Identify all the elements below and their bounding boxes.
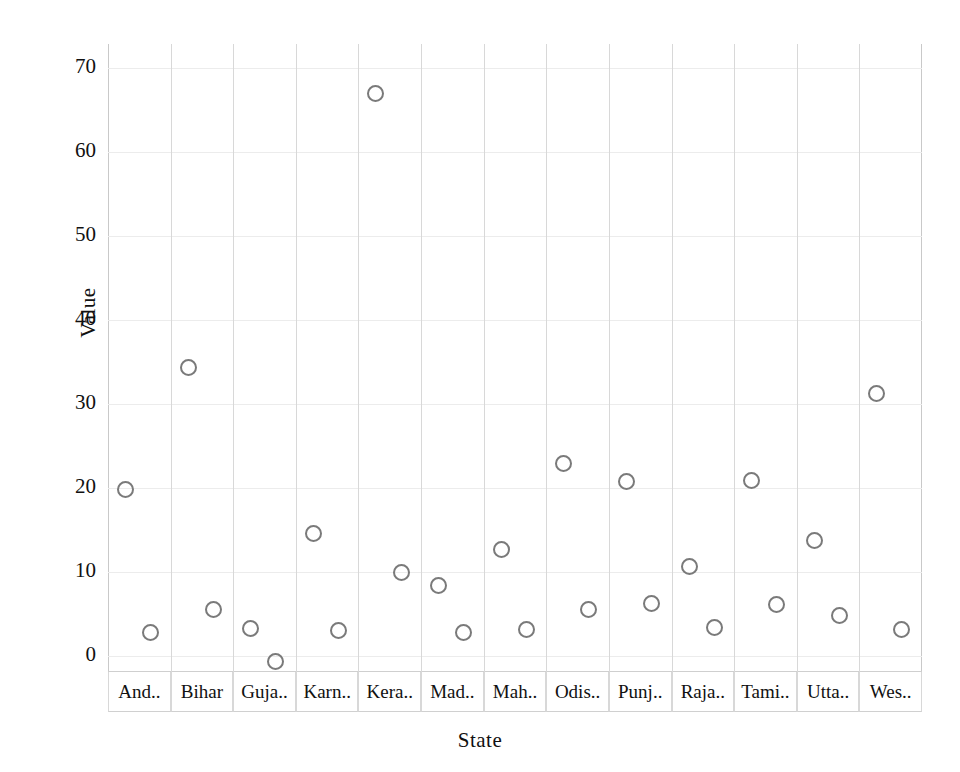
panel-strip-label: Bihar bbox=[171, 672, 234, 712]
y-axis-line bbox=[108, 44, 109, 672]
y-axis-tick-label: 60 bbox=[46, 138, 96, 163]
plot-right-border bbox=[921, 44, 922, 672]
data-point bbox=[330, 622, 347, 639]
data-point bbox=[831, 607, 848, 624]
data-point bbox=[393, 564, 410, 581]
data-point bbox=[580, 601, 597, 618]
gridline-horizontal bbox=[108, 152, 922, 153]
panel-separator bbox=[609, 44, 610, 672]
gridline-horizontal bbox=[108, 68, 922, 69]
data-point bbox=[555, 455, 572, 472]
data-point bbox=[430, 577, 447, 594]
x-axis-title: State bbox=[0, 728, 960, 753]
panel-strip-labels: And..BiharGuja..Karn..Kera..Mad..Mah..Od… bbox=[108, 672, 922, 712]
panel-strip-label: Tami.. bbox=[734, 672, 797, 712]
panel-separator bbox=[421, 44, 422, 672]
panel-separator bbox=[233, 44, 234, 672]
gridline-horizontal bbox=[108, 404, 922, 405]
data-point bbox=[768, 596, 785, 613]
panel-separator bbox=[171, 44, 172, 672]
data-point bbox=[806, 532, 823, 549]
y-axis-tick-label: 20 bbox=[46, 474, 96, 499]
panel-separator bbox=[859, 44, 860, 672]
gridline-horizontal bbox=[108, 656, 922, 657]
y-axis-tick-label: 40 bbox=[46, 306, 96, 331]
data-point bbox=[518, 621, 535, 638]
data-point bbox=[743, 472, 760, 489]
data-point bbox=[618, 473, 635, 490]
panel-separator bbox=[672, 44, 673, 672]
panel-separator bbox=[484, 44, 485, 672]
y-axis-tick-label: 70 bbox=[46, 54, 96, 79]
panel-strip-label: Punj.. bbox=[609, 672, 672, 712]
data-point bbox=[493, 541, 510, 558]
y-axis-tick-label: 50 bbox=[46, 222, 96, 247]
data-point bbox=[305, 525, 322, 542]
data-point bbox=[267, 653, 284, 670]
panel-strip-label: Wes.. bbox=[859, 672, 922, 712]
data-point bbox=[117, 481, 134, 498]
data-point bbox=[893, 621, 910, 638]
y-axis-tick-label: 10 bbox=[46, 558, 96, 583]
panel-strip-label: And.. bbox=[108, 672, 171, 712]
panel-strip-label: Raja.. bbox=[672, 672, 735, 712]
data-point bbox=[455, 624, 472, 641]
data-point bbox=[242, 620, 259, 637]
data-point bbox=[706, 619, 723, 636]
data-point bbox=[868, 385, 885, 402]
data-point bbox=[367, 85, 384, 102]
scatter-chart: Value 706050403020100 And..BiharGuja..Ka… bbox=[0, 0, 960, 772]
panel-strip-label: Odis.. bbox=[546, 672, 609, 712]
plot-area bbox=[108, 44, 922, 672]
panel-strip-label: Guja.. bbox=[233, 672, 296, 712]
panel-strip-label: Kera.. bbox=[358, 672, 421, 712]
panel-strip-label: Karn.. bbox=[296, 672, 359, 712]
panel-separator bbox=[734, 44, 735, 672]
data-point bbox=[180, 359, 197, 376]
data-point bbox=[643, 595, 660, 612]
panel-strip-label: Mad.. bbox=[421, 672, 484, 712]
panel-strip-label: Mah.. bbox=[484, 672, 547, 712]
data-point bbox=[142, 624, 159, 641]
panel-separator bbox=[296, 44, 297, 672]
gridline-horizontal bbox=[108, 488, 922, 489]
gridline-horizontal bbox=[108, 572, 922, 573]
y-axis-tick-label: 0 bbox=[46, 642, 96, 667]
y-axis-tick-label: 30 bbox=[46, 390, 96, 415]
panel-separator bbox=[797, 44, 798, 672]
gridline-horizontal bbox=[108, 236, 922, 237]
panel-separator bbox=[358, 44, 359, 672]
gridline-horizontal bbox=[108, 320, 922, 321]
panel-separator bbox=[546, 44, 547, 672]
panel-strip-label: Utta.. bbox=[797, 672, 860, 712]
data-point bbox=[205, 601, 222, 618]
data-point bbox=[681, 558, 698, 575]
